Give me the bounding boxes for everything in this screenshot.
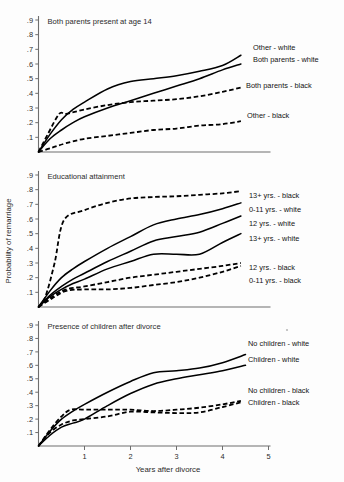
y-tick-label: .7 <box>27 45 33 54</box>
series-label: Other - white <box>253 43 295 52</box>
series-label: 13+ yrs. - white <box>249 234 299 243</box>
y-tick-label: .8 <box>27 334 33 343</box>
y-tick-label: .5 <box>27 74 33 83</box>
y-axis-title: Probability of remarriage <box>4 199 13 284</box>
series-label: 0-11 yrs. - black <box>249 276 301 285</box>
y-tick-label: .7 <box>27 200 33 209</box>
series-label: Both parents - black <box>246 81 312 90</box>
series-label: Children - white <box>248 355 299 364</box>
x-tick-label: 3 <box>174 452 178 461</box>
panel-title: Both parents present at age 14 <box>48 17 152 26</box>
series-label: Both parents - white <box>253 55 319 64</box>
y-tick-label: .3 <box>27 401 33 410</box>
series-label: 13+ yrs. - black <box>249 191 300 200</box>
y-tick-label: .9 <box>27 16 33 25</box>
remarriage-probability-figure: .9.8.7.6.5.4.3.2.1Both parents present a… <box>0 0 344 482</box>
series-label: 0-11 yrs. - white <box>249 205 301 214</box>
y-tick-label: .5 <box>27 374 33 383</box>
y-tick-label: .4 <box>27 244 33 253</box>
series-curve <box>39 64 241 152</box>
series-curve <box>39 216 241 307</box>
y-tick-label: .4 <box>27 388 33 397</box>
y-tick-label: .1 <box>27 428 33 437</box>
y-tick-label: .6 <box>27 361 33 370</box>
series-curve <box>39 55 241 152</box>
y-tick-label: .3 <box>27 259 33 268</box>
panel-children: .9.8.7.6.5.4.3.2.112345Presence of child… <box>27 321 310 461</box>
y-tick-label: .6 <box>27 215 33 224</box>
panels-group: .9.8.7.6.5.4.3.2.1Both parents present a… <box>27 16 319 461</box>
axis-titles: Years after divorce Probability of remar… <box>4 199 200 474</box>
y-tick-label: .1 <box>27 133 33 142</box>
y-tick-label: .1 <box>27 288 33 297</box>
y-tick-label: .9 <box>27 321 33 330</box>
chart-canvas: .9.8.7.6.5.4.3.2.1Both parents present a… <box>0 0 344 482</box>
y-tick-label: .8 <box>27 185 33 194</box>
series-label: 12 yrs. - black <box>249 263 295 272</box>
panel-education: .9.8.7.6.5.4.3.2.1Educational attainment… <box>27 171 301 307</box>
y-tick-label: .7 <box>27 348 33 357</box>
y-tick-label: .2 <box>27 415 33 424</box>
y-tick-label: .5 <box>27 229 33 238</box>
series-curve <box>39 401 241 446</box>
series-curve <box>39 203 241 307</box>
series-label: Other - black <box>247 111 290 120</box>
series-label: 12 yrs. - white <box>249 219 295 228</box>
x-tick-label: 1 <box>82 452 86 461</box>
stray-speck <box>286 329 288 331</box>
series-label: No children - black <box>248 386 310 395</box>
y-tick-label: .8 <box>27 30 33 39</box>
series-label: No children - white <box>248 339 309 348</box>
series-label: Children - black <box>248 398 300 407</box>
panel-title: Educational attainment <box>48 172 126 181</box>
y-tick-label: .9 <box>27 171 33 180</box>
series-curve <box>39 234 241 307</box>
panel-title: Presence of children after divorce <box>48 322 161 331</box>
y-tick-label: .2 <box>27 118 33 127</box>
x-tick-label: 4 <box>220 452 224 461</box>
x-tick-label: 2 <box>128 452 132 461</box>
x-tick-label: 5 <box>266 452 270 461</box>
y-tick-label: .6 <box>27 60 33 69</box>
y-tick-label: .4 <box>27 89 33 98</box>
x-axis-title: Years after divorce <box>136 465 201 474</box>
series-curve <box>39 355 246 446</box>
y-tick-label: .3 <box>27 104 33 113</box>
y-tick-label: .2 <box>27 273 33 282</box>
panel-parents: .9.8.7.6.5.4.3.2.1Both parents present a… <box>27 16 319 152</box>
